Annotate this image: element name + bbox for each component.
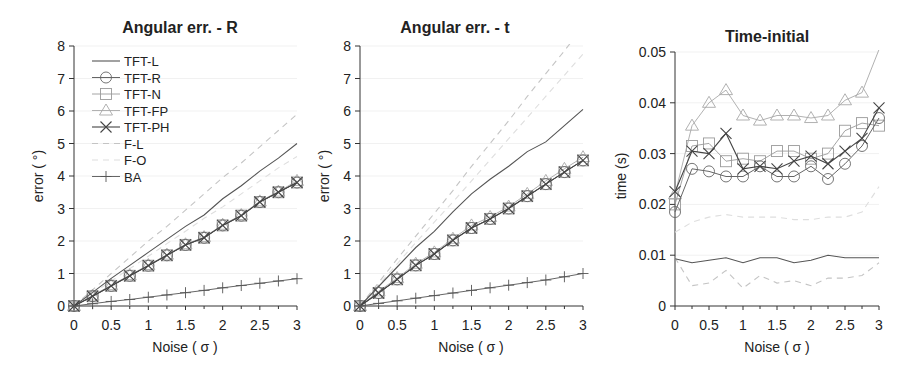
y-tick-label: 1	[57, 266, 65, 282]
legend-item-tft-n: TFT-N	[92, 87, 161, 102]
legend-item-tft-ph: TFT-PH	[92, 120, 170, 135]
plot-area: 01234567800.511.522.53	[343, 27, 589, 334]
x-tick-label: 0	[356, 317, 364, 333]
x-marker-icon	[806, 151, 817, 162]
plus-marker-icon	[429, 290, 440, 301]
x-marker-icon	[823, 158, 834, 169]
x-marker-icon	[772, 163, 783, 174]
x-tick-label: 3	[579, 317, 587, 333]
legend-label: TFT-L	[124, 54, 159, 69]
chart-title: Angular err. - t	[400, 19, 510, 36]
x-marker-icon	[447, 235, 458, 246]
x-marker-icon	[292, 177, 303, 188]
x-marker-icon	[874, 102, 885, 113]
plus-marker-icon	[522, 277, 533, 288]
legend-item-f-o: F-O	[92, 153, 146, 168]
x-tick-label: 1	[430, 317, 438, 333]
x-axis-label: Noise ( σ )	[152, 339, 217, 355]
plot-area: 01234567800.511.522.53	[57, 38, 303, 333]
plus-marker-icon	[578, 268, 589, 279]
x-tick-label: 2	[807, 317, 815, 333]
x-marker-icon	[373, 288, 384, 299]
plus-marker-icon	[161, 289, 172, 300]
figure: Angular err. - R 01234567800.511.522.53 …	[0, 0, 922, 380]
series-tft-fp	[669, 50, 880, 199]
plus-marker-icon	[101, 171, 112, 182]
plus-marker-icon	[392, 295, 403, 306]
plus-marker-icon	[540, 275, 551, 286]
y-tick-label: 2	[57, 233, 65, 249]
y-tick-label: 0	[343, 298, 351, 314]
y-tick-label: 7	[343, 71, 351, 87]
legend-label: F-L	[124, 137, 144, 152]
plus-marker-icon	[410, 293, 421, 304]
x-marker-icon	[721, 128, 732, 139]
y-tick-label: 4	[57, 168, 65, 184]
legend-label: TFT-FP	[124, 104, 168, 119]
y-tick-label: 2	[343, 233, 351, 249]
x-marker-icon	[410, 260, 421, 271]
y-tick-label: 0	[658, 298, 666, 314]
x-tick-label: 2	[219, 317, 227, 333]
x-tick-label: 3	[875, 317, 883, 333]
triangle-marker-icon	[703, 96, 716, 107]
x-marker-icon	[392, 274, 403, 285]
x-marker-icon	[840, 146, 851, 157]
y-tick-label: 5	[343, 136, 351, 152]
plus-marker-icon	[503, 280, 514, 291]
y-tick-label: 0	[57, 298, 65, 314]
x-tick-label: 2.5	[835, 317, 855, 333]
triangle-marker-icon	[686, 119, 699, 130]
plus-marker-icon	[143, 292, 154, 303]
chart-title: Time-initial	[725, 28, 809, 45]
plus-marker-icon	[559, 271, 570, 282]
legend: TFT-LTFT-RTFT-NTFT-FPTFT-PHF-LF-OBA	[92, 54, 170, 185]
legend-label: TFT-R	[124, 71, 161, 86]
series-tft-ph	[670, 102, 885, 197]
legend-item-ba: BA	[92, 170, 142, 185]
y-axis-label: error ( °)	[316, 150, 332, 202]
chart-time-initial: Time-initial 00.010.020.030.040.0500.511…	[613, 28, 885, 355]
y-axis-label: time (s)	[613, 153, 629, 200]
plus-marker-icon	[124, 294, 135, 305]
y-tick-label: 5	[57, 136, 65, 152]
plus-marker-icon	[180, 287, 191, 298]
plus-marker-icon	[466, 285, 477, 296]
x-tick-label: 0	[70, 317, 78, 333]
x-tick-label: 2.5	[250, 317, 270, 333]
y-tick-label: 3	[57, 201, 65, 217]
x-tick-label: 3	[293, 317, 301, 333]
plus-marker-icon	[292, 273, 303, 284]
legend-label: F-O	[124, 153, 146, 168]
y-tick-label: 3	[343, 201, 351, 217]
x-marker-icon	[738, 163, 749, 174]
y-tick-label: 0.05	[639, 44, 666, 60]
y-tick-label: 1	[343, 266, 351, 282]
y-tick-label: 4	[343, 168, 351, 184]
y-tick-label: 6	[343, 103, 351, 119]
plus-marker-icon	[273, 275, 284, 286]
series-f-l	[675, 258, 879, 289]
plus-marker-icon	[106, 296, 117, 307]
y-tick-label: 0.03	[639, 146, 666, 162]
plus-marker-icon	[447, 288, 458, 299]
x-marker-icon	[578, 155, 589, 166]
legend-label: BA	[124, 170, 142, 185]
chart-title: Angular err. - R	[122, 19, 238, 36]
x-marker-icon	[429, 249, 440, 260]
plus-marker-icon	[485, 282, 496, 293]
x-axis-label: Noise ( σ )	[744, 339, 809, 355]
series-tft-l	[360, 109, 583, 306]
plus-marker-icon	[217, 282, 228, 293]
y-tick-label: 0.01	[639, 247, 666, 263]
x-tick-label: 1	[739, 317, 747, 333]
chart-angular-error-r: Angular err. - R 01234567800.511.522.53 …	[30, 19, 304, 355]
y-tick-label: 7	[57, 71, 65, 87]
x-tick-label: 2.5	[536, 317, 556, 333]
plus-marker-icon	[199, 285, 210, 296]
triangle-marker-icon	[822, 109, 835, 120]
x-axis-label: Noise ( σ )	[438, 339, 503, 355]
legend-item-tft-r: TFT-R	[92, 71, 161, 86]
legend-item-tft-l: TFT-L	[92, 54, 159, 69]
y-tick-label: 8	[343, 38, 351, 54]
